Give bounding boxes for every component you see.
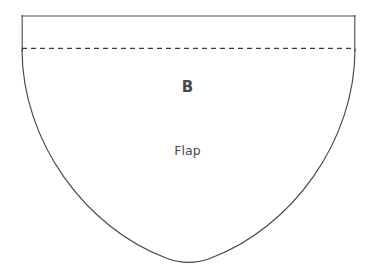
pattern-diagram: B Flap [0, 0, 375, 278]
section-label-b: B [0, 80, 375, 95]
pattern-outline-svg [0, 0, 375, 278]
piece-name-label-flap: Flap [0, 145, 375, 158]
pattern-piece-fill [22, 16, 355, 263]
